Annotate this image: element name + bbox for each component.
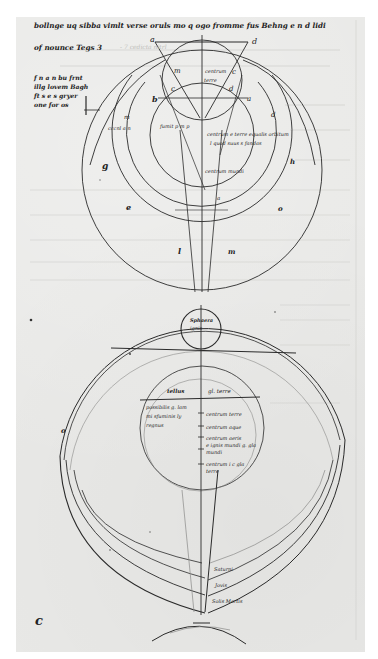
ink-specks xyxy=(30,179,276,551)
svg-text:regnus: regnus xyxy=(146,422,164,429)
svg-text:centrum aque: centrum aque xyxy=(206,424,241,431)
svg-text:d: d xyxy=(252,37,257,46)
svg-text:terre: terre xyxy=(206,468,219,474)
svg-text:o: o xyxy=(61,426,66,435)
svg-text:centrum i c gla: centrum i c gla xyxy=(206,461,244,468)
svg-text:Sphaera: Sphaera xyxy=(190,317,213,324)
svg-text:centrum e terre equalis orbitu: centrum e terre equalis orbitum xyxy=(207,131,289,138)
svg-text:Jovis: Jovis xyxy=(214,582,227,589)
svg-text:terre: terre xyxy=(204,77,217,83)
svg-text:fumit p m p: fumit p m p xyxy=(159,123,190,130)
lower-diagram xyxy=(60,305,345,644)
svg-text:gl. terre: gl. terre xyxy=(208,388,231,395)
svg-text:o: o xyxy=(278,204,283,213)
svg-text:possibilis g. lam: possibilis g. lam xyxy=(146,404,187,411)
svg-text:m: m xyxy=(174,67,181,75)
svg-text:b: b xyxy=(152,94,158,104)
bleed-text: - 7 cedicta nitrl xyxy=(120,43,167,50)
svg-text:c: c xyxy=(232,68,236,76)
svg-text:one for os: one for os xyxy=(34,101,69,109)
margin-note: f n a n bu frnt illg lovem Bagh ft s e s… xyxy=(33,74,100,115)
header-line-1: bollnge uq sibba vimlt verse oruls mo q … xyxy=(34,21,326,30)
astronomical-diagram: bollnge uq sibba vimlt verse oruls mo q … xyxy=(0,0,378,659)
svg-text:tellus: tellus xyxy=(167,388,184,394)
svg-text:Solis Martis: Solis Martis xyxy=(212,598,243,604)
svg-text:Saturni: Saturni xyxy=(214,566,233,572)
svg-text:e: e xyxy=(126,202,131,212)
svg-text:e ignis mundi g. gla: e ignis mundi g. gla xyxy=(206,442,256,449)
svg-text:ignis: ignis xyxy=(190,325,203,332)
header-line-2: of nounce Tegs 3 xyxy=(34,43,102,52)
svg-text:mi sfuminis ly: mi sfuminis ly xyxy=(146,413,181,420)
svg-text:a: a xyxy=(150,35,155,44)
svg-text:l: l xyxy=(178,246,181,256)
svg-text:illg lovem Bagh: illg lovem Bagh xyxy=(34,83,88,91)
svg-text:g: g xyxy=(102,161,108,171)
upper-diagram xyxy=(82,35,322,292)
svg-text:mundi: mundi xyxy=(206,449,222,455)
svg-text:a: a xyxy=(247,95,251,103)
svg-text:m: m xyxy=(228,247,235,256)
svg-text:a: a xyxy=(217,195,220,201)
svg-text:centrum terre: centrum terre xyxy=(206,411,242,417)
svg-text:h: h xyxy=(290,157,295,166)
svg-text:l quod suus s fandas: l quod suus s fandas xyxy=(210,140,262,147)
svg-text:f n a n bu frnt: f n a n bu frnt xyxy=(33,74,83,82)
svg-text:m: m xyxy=(124,113,130,120)
svg-text:centrum mundi: centrum mundi xyxy=(205,168,244,174)
upper-labels: centrum terre centrum e terre equalis or… xyxy=(108,68,289,174)
svg-text:centrum: centrum xyxy=(205,68,227,74)
svg-text:c: c xyxy=(35,613,43,628)
svg-text:d: d xyxy=(229,85,234,93)
svg-text:centrum aeris: centrum aeris xyxy=(206,435,242,441)
svg-text:d: d xyxy=(271,111,276,119)
earth-sphere xyxy=(140,366,264,490)
svg-text:cccnl a n: cccnl a n xyxy=(108,125,131,131)
svg-text:c: c xyxy=(171,85,175,93)
svg-text:ft s e s gryer: ft s e s gryer xyxy=(33,92,78,100)
